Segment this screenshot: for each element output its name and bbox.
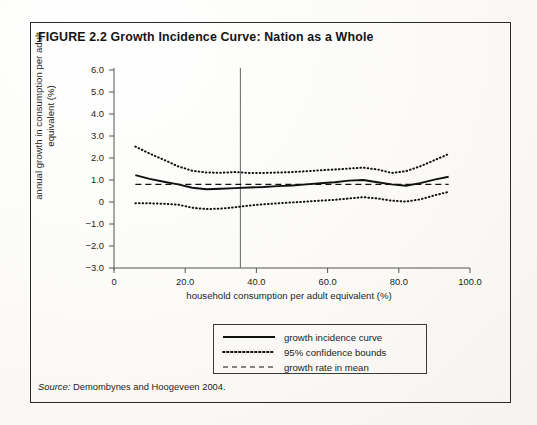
chart-legend: growth incidence curve 95% confidence bo… <box>213 324 427 374</box>
source-text: Demombynes and Hoogeveen 2004. <box>70 381 225 392</box>
legend-label-1: 95% confidence bounds <box>284 347 386 358</box>
chart-series <box>135 147 448 209</box>
dashed-line-key <box>222 362 276 372</box>
legend-item-growth-incidence-curve: growth incidence curve <box>222 330 382 344</box>
legend-item-confidence-bounds: 95% confidence bounds <box>222 345 386 359</box>
series-95-confidence-lower-bound <box>135 192 448 209</box>
series-95-confidence-upper-bound <box>135 147 448 173</box>
source-prefix: Source: <box>38 381 70 392</box>
solid-line-key <box>222 332 276 342</box>
legend-label-0: growth incidence curve <box>284 332 382 343</box>
legend-label-2: growth rate in mean <box>284 362 369 373</box>
legend-item-growth-rate-in-mean: growth rate in mean <box>222 360 369 374</box>
series-growth-incidence-curve <box>135 175 448 189</box>
chart-axes <box>109 68 470 273</box>
source-note: Source: Demombynes and Hoogeveen 2004. <box>38 381 226 392</box>
dotted-line-key <box>222 347 276 357</box>
